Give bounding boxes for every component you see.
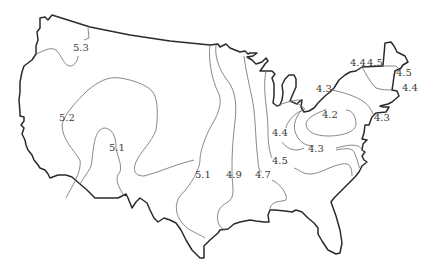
contour-4.4 — [282, 101, 360, 168]
contour-4.4-ne — [362, 67, 392, 90]
contour-5.1-west — [80, 128, 124, 196]
label-4.5-ne: 4.5 — [367, 57, 383, 68]
contour-4.5-north — [265, 71, 272, 158]
label-4.4-east: 4.4 — [402, 82, 418, 93]
label-4.7: 4.7 — [255, 169, 271, 180]
contour-4.3-north — [332, 90, 374, 116]
label-4.5: 4.5 — [272, 155, 288, 166]
label-4.4: 4.4 — [272, 127, 288, 138]
label-4.4-ne: 4.4 — [350, 57, 366, 68]
contour-5.1-central — [176, 45, 220, 238]
contour-4.9 — [216, 45, 236, 230]
label-4.2: 4.2 — [322, 109, 338, 120]
label-5.1-central: 5.1 — [195, 169, 211, 180]
isoline-map: 5.3 5.2 5.1 5.1 4.9 4.7 4.5 4.4 4.3 4.2 … — [0, 0, 432, 276]
label-5.3: 5.3 — [73, 42, 89, 53]
label-4.3-north: 4.3 — [316, 83, 332, 94]
us-map-svg: 5.3 5.2 5.1 5.1 4.9 4.7 4.5 4.4 4.3 4.2 … — [0, 0, 432, 276]
contour-5.2 — [62, 78, 194, 198]
label-4.3-east: 4.3 — [374, 112, 390, 123]
label-4.9: 4.9 — [226, 169, 242, 180]
label-4.3-south: 4.3 — [308, 143, 324, 154]
contour-4.5 — [277, 100, 352, 176]
label-5.2: 5.2 — [59, 112, 75, 123]
label-5.1-west: 5.1 — [109, 142, 125, 153]
label-4.5-east: 4.5 — [396, 67, 412, 78]
